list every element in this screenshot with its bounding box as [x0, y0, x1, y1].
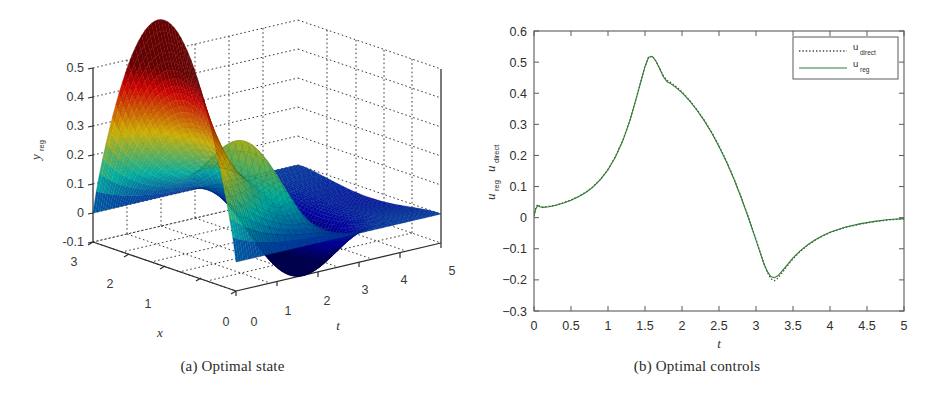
- z-tick-label: 0: [77, 206, 84, 220]
- y-tick-label: 0.5: [510, 56, 527, 70]
- z-axis-label-subscript: reg: [37, 140, 46, 151]
- y-axis-label-base-1: u: [483, 193, 498, 200]
- x-tick-label: 2.5: [710, 319, 727, 333]
- x-tick-label: 0.5: [562, 319, 579, 333]
- t-axis-label: t: [336, 318, 340, 333]
- y-axis-label: u reg u direct: [483, 144, 501, 200]
- z-axis-tick-labels: 0.5 0.4 0.3 0.2 0.1 0 -0.1: [62, 61, 84, 249]
- legend-label-subscript: reg: [860, 66, 870, 74]
- x-tick-label: 0: [223, 315, 230, 329]
- x-tick-label: 4: [827, 319, 834, 333]
- x-tick-label: 1.5: [636, 319, 653, 333]
- x-tick-label: 0: [531, 319, 538, 333]
- z-axis-ticks: [88, 68, 93, 243]
- y-axis-label-base-2: u: [483, 165, 498, 172]
- z-axis-label: y reg: [28, 140, 46, 162]
- y-tick-label: 0.2: [510, 149, 527, 163]
- x-axis-tick-labels: 3 2 1 0: [71, 255, 230, 329]
- t-tick-label: 3: [362, 283, 369, 297]
- x-tick-label: 2: [679, 319, 686, 333]
- panel-b-caption: (b) Optimal controls: [465, 358, 929, 375]
- t-tick-label: 2: [324, 294, 331, 308]
- y-tick-label: 0.1: [510, 180, 527, 194]
- surface-plot-svg: 0.5 0.4 0.3 0.2 0.1 0 -0.1 y reg: [0, 0, 465, 355]
- legend-label-base: u: [853, 41, 858, 52]
- y-tick-label: −0.3: [502, 305, 527, 319]
- legend-box: [793, 37, 898, 79]
- z-tick-label: 0.4: [67, 90, 84, 104]
- y-tick-label: 0.3: [510, 118, 527, 132]
- legend-label-subscript: direct: [860, 49, 876, 56]
- y-tick-label: 0.6: [510, 25, 527, 39]
- x-tick-label: 3: [753, 319, 760, 333]
- y-axis-label-subscript-1: reg: [492, 180, 501, 191]
- panel-optimal-state: 0.5 0.4 0.3 0.2 0.1 0 -0.1 y reg: [0, 0, 465, 409]
- z-tick-label: 0.5: [67, 61, 84, 75]
- x-tick-label: 5: [901, 319, 908, 333]
- z-tick-label: 0.1: [67, 177, 84, 191]
- panel-a-caption: (a) Optimal state: [0, 358, 465, 375]
- z-tick-label: 0.2: [67, 148, 84, 162]
- y-axis-label-subscript-2: direct: [492, 144, 501, 163]
- panel-optimal-controls: 0.60.50.40.30.20.10−0.1−0.2−0.3 00.511.5…: [465, 0, 929, 409]
- x-axis-label: t: [717, 336, 721, 351]
- x-tick-label: 3.5: [784, 319, 801, 333]
- x-tick-label: 1: [145, 297, 152, 311]
- t-tick-label: 1: [285, 304, 292, 318]
- t-tick-label: 5: [449, 264, 456, 278]
- z-tick-label: -0.1: [62, 235, 84, 249]
- x-axis-label: x: [156, 325, 163, 340]
- y-tick-label: −0.1: [502, 242, 527, 256]
- x-axis-tick-labels: 00.511.522.533.544.55: [531, 319, 908, 333]
- y-tick-label: 0: [520, 211, 527, 225]
- x-tick-label: 3: [71, 255, 78, 269]
- t-tick-label: 4: [401, 273, 408, 287]
- z-tick-label: 0.3: [67, 119, 84, 133]
- y-tick-label: −0.2: [502, 273, 527, 287]
- legend: u direct u reg: [793, 37, 898, 79]
- z-axis-label-base: y: [28, 154, 43, 162]
- surface-mesh: [93, 20, 441, 277]
- y-axis-tick-labels: 0.60.50.40.30.20.10−0.1−0.2−0.3: [502, 25, 527, 319]
- x-tick-label: 1: [605, 319, 612, 333]
- y-tick-label: 0.4: [510, 87, 527, 101]
- x-tick-label: 4.5: [858, 319, 875, 333]
- line-plot-svg: 0.60.50.40.30.20.10−0.1−0.2−0.3 00.511.5…: [465, 0, 929, 355]
- t-axis-tick-labels: 0 1 2 3 4 5: [251, 264, 456, 329]
- legend-label-base: u: [853, 58, 858, 69]
- x-tick-label: 2: [107, 277, 114, 291]
- figure-root: 0.5 0.4 0.3 0.2 0.1 0 -0.1 y reg: [0, 0, 929, 409]
- t-tick-label: 0: [251, 315, 258, 329]
